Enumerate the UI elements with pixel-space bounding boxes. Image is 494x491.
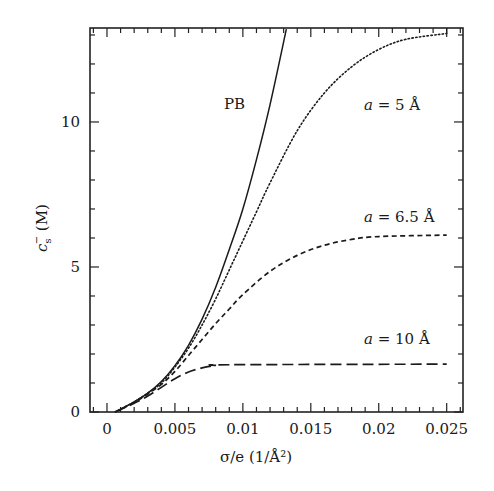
y-axis-label-superscript: − bbox=[31, 236, 42, 244]
y-tick-label: 0 bbox=[70, 403, 80, 421]
x-tick-label: 0 bbox=[102, 420, 112, 438]
curve-a-10 bbox=[115, 364, 447, 412]
x-axis-label: σ/e (1/Å²) bbox=[220, 448, 292, 466]
x-tick-label: 0.025 bbox=[425, 420, 468, 438]
y-axis-label: cs− (M) bbox=[31, 204, 53, 252]
annotation-a6-5-value: = 6.5 Å bbox=[373, 208, 435, 226]
annotation-a5: a = 5 Å bbox=[364, 96, 420, 114]
annotation-a10: a = 10 Å bbox=[364, 330, 430, 348]
x-tick-label: 0.015 bbox=[289, 420, 332, 438]
x-tick-label: 0.005 bbox=[153, 420, 196, 438]
x-tick-label: 0.02 bbox=[362, 420, 395, 438]
curve-pb bbox=[115, 29, 286, 412]
annotation-a10-var: a bbox=[364, 330, 373, 348]
annotation-a5-value: = 5 Å bbox=[373, 96, 420, 114]
chart: 00.0050.010.0150.020.0250510 PB a = 5 Å … bbox=[0, 0, 494, 491]
annotation-a5-var: a bbox=[364, 96, 373, 114]
annotation-a6-5-var: a bbox=[364, 208, 373, 226]
annotation-a10-value: = 10 Å bbox=[373, 330, 430, 348]
y-axis-label-unit: (M) bbox=[33, 204, 51, 236]
annotation-a6-5: a = 6.5 Å bbox=[364, 208, 435, 226]
x-tick-label: 0.01 bbox=[226, 420, 259, 438]
annotation-pb: PB bbox=[224, 95, 245, 113]
y-axis-label-subscript: s bbox=[42, 238, 53, 243]
y-tick-label: 10 bbox=[61, 113, 80, 131]
y-tick-label: 5 bbox=[70, 258, 80, 276]
